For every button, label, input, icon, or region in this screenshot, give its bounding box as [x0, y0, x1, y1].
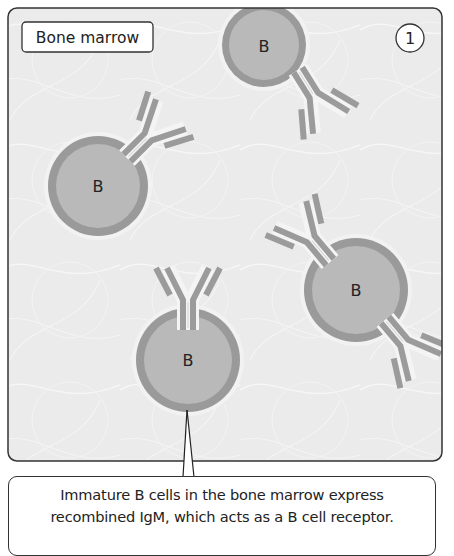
step-number: 1: [405, 29, 415, 48]
cell-label: B: [351, 281, 362, 300]
bone-marrow-panel: B B B: [8, 0, 449, 461]
step-number-badge: 1: [396, 24, 424, 52]
cell-label: B: [183, 351, 194, 370]
cell-label: B: [93, 177, 104, 196]
caption-line-1: Immature B cells in the bone marrow expr…: [9, 484, 435, 506]
caption-box: Immature B cells in the bone marrow expr…: [8, 476, 436, 556]
location-label-box: Bone marrow: [22, 22, 153, 52]
cell-label: B: [259, 37, 270, 56]
caption-line-2: recombined IgM, which acts as a B cell r…: [9, 506, 435, 528]
location-label: Bone marrow: [36, 29, 140, 47]
